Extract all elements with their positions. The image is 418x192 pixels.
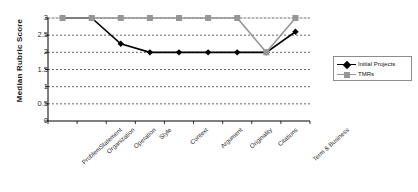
x-tick-label: Argument: [219, 126, 244, 149]
x-tick-label: Citations: [277, 126, 300, 147]
legend-key-initial-projects: [337, 60, 356, 69]
x-tick-label: Context: [188, 126, 209, 145]
legend-item-initial-projects: Initial Projects: [337, 59, 408, 69]
chart-legend: Initial Projects TMRs: [333, 56, 412, 81]
legend-label-initial-projects: Initial Projects: [358, 61, 395, 67]
legend-key-tmrs: [337, 70, 356, 79]
legend-item-tmrs: TMRs: [337, 69, 408, 79]
x-tick-label: Style: [157, 126, 172, 140]
x-axis-tick-labels: ProblemStatementOrganizationOperationSty…: [0, 0, 418, 192]
median-rubric-score-chart: Median Rubric Score 00.511.522.53 Proble…: [0, 0, 418, 192]
legend-label-tmrs: TMRs: [358, 71, 374, 77]
x-tick-label: Originality: [248, 126, 273, 150]
x-tick-label: Term & Business: [311, 126, 350, 162]
x-tick-label: Operation: [132, 126, 157, 149]
